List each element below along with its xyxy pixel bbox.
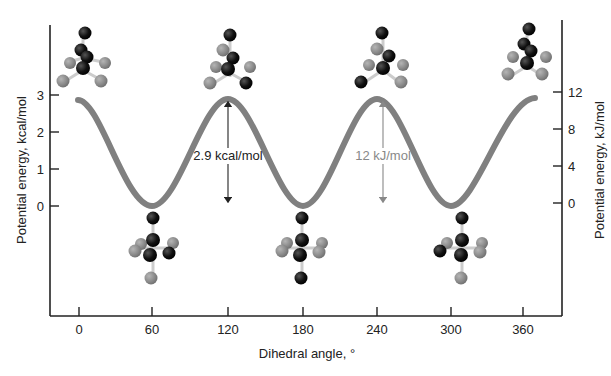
y-left-tick-label: 2 (37, 125, 44, 140)
x-tick-label: 60 (145, 322, 159, 337)
right-y-ticks: 12 8 4 0 (553, 85, 582, 211)
annot-kcal-label: 2.9 kcal/mol (193, 148, 262, 163)
x-tick-label: 360 (512, 322, 534, 337)
y-right-tick-label: 4 (568, 159, 575, 174)
molecule-staggered-60 (129, 212, 180, 285)
molecule-eclipsed-240 (355, 27, 410, 89)
energy-curve (78, 98, 535, 206)
x-tick-label: 0 (75, 322, 82, 337)
molecule-eclipsed-0 (57, 27, 112, 88)
y-left-tick-label: 1 (37, 162, 44, 177)
y-left-tick-label: 3 (37, 88, 44, 103)
y-left-tick-label: 0 (37, 199, 44, 214)
annotation-kcal: 2.9 kcal/mol (193, 104, 262, 200)
annotation-kj: 12 kJ/mol (355, 104, 411, 200)
y-axis-label-left: Potential energy, kcal/mol (14, 96, 29, 244)
molecule-eclipsed-360 (502, 23, 553, 81)
y-axis-label-right: Potential energy, kJ/mol (592, 101, 607, 239)
annot-kj-label: 12 kJ/mol (355, 148, 411, 163)
molecule-staggered-180 (276, 212, 329, 285)
y-right-tick-label: 0 (568, 196, 575, 211)
molecule-eclipsed-120 (204, 29, 257, 90)
y-right-tick-label: 8 (568, 122, 575, 137)
x-ticks: 0 60 120 180 240 300 360 (75, 307, 533, 337)
left-y-ticks: 3 2 1 0 (37, 88, 59, 214)
x-tick-label: 120 (217, 322, 239, 337)
x-axis-label: Dihedral angle, ° (259, 346, 355, 361)
energy-diagram: 3 2 1 0 12 8 4 0 0 60 120 180 240 300 36… (0, 0, 611, 376)
x-tick-label: 240 (366, 322, 388, 337)
x-tick-label: 180 (292, 322, 314, 337)
x-tick-label: 300 (440, 322, 462, 337)
molecule-staggered-300 (434, 212, 489, 285)
y-right-tick-label: 12 (568, 85, 582, 100)
